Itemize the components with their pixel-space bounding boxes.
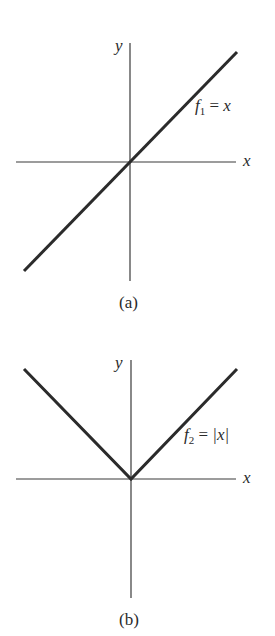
figure-b-graphics <box>16 360 237 598</box>
figure-b-caption: (b) <box>119 610 139 630</box>
figure-b-x-axis-label: x <box>243 468 251 488</box>
figure-a-y-axis-label: y <box>115 36 123 56</box>
figure-a-caption: (a) <box>119 293 138 313</box>
function-equals: = <box>205 96 223 115</box>
figure-a-graphics <box>16 43 237 281</box>
function-rhs: x <box>223 96 231 115</box>
function-equals: = <box>194 425 212 444</box>
figure-b-y-axis-label: y <box>115 353 123 373</box>
figure-a-function-label: f1 = x <box>195 96 231 117</box>
figure-b-function-label: f2 = |x| <box>184 425 229 446</box>
diagram-canvas <box>0 0 275 636</box>
function-rhs: |x| <box>212 425 229 444</box>
figure-a-x-axis-label: x <box>243 151 251 171</box>
